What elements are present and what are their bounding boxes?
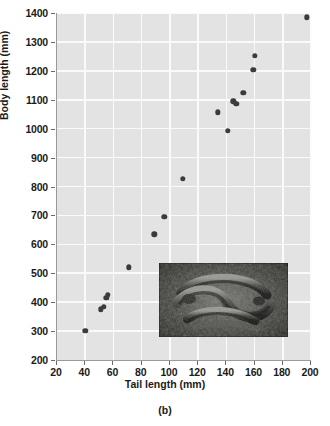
data-point — [225, 128, 230, 133]
y-tick-600 — [51, 244, 55, 245]
y-tick-800 — [51, 187, 55, 188]
x-tick-100 — [169, 361, 170, 365]
data-point — [180, 176, 185, 181]
gridline-horizontal-1200 — [57, 70, 311, 72]
x-tick-200 — [310, 361, 311, 365]
y-tick-label-600: 600 — [14, 238, 48, 250]
y-axis-title: Body length (mm) — [0, 31, 10, 120]
data-point — [126, 265, 131, 270]
y-tick-label-700: 700 — [14, 209, 48, 221]
gridline-horizontal-700 — [57, 215, 311, 217]
data-point — [215, 109, 220, 114]
x-tick-40 — [84, 361, 85, 365]
gridline-horizontal-900 — [57, 157, 311, 159]
x-tick-120 — [197, 361, 198, 365]
data-point — [304, 15, 309, 20]
y-tick-1100 — [51, 100, 55, 101]
x-tick-60 — [112, 361, 113, 365]
gridline-horizontal-1400 — [57, 13, 311, 14]
y-tick-label-200: 200 — [14, 354, 48, 366]
y-tick-400 — [51, 302, 55, 303]
x-axis-title: Tail length (mm) — [0, 378, 330, 390]
gridline-horizontal-1000 — [57, 128, 311, 130]
y-tick-1200 — [51, 71, 55, 72]
gridline-horizontal-800 — [57, 186, 311, 188]
x-tick-180 — [282, 361, 283, 365]
data-point — [152, 232, 157, 237]
panel-caption: (b) — [0, 404, 330, 416]
y-tick-label-400: 400 — [14, 296, 48, 308]
data-point — [234, 101, 239, 106]
y-tick-500 — [51, 273, 55, 274]
gridline-horizontal-600 — [57, 244, 311, 246]
gridline-horizontal-1300 — [57, 41, 311, 43]
x-tick-80 — [141, 361, 142, 365]
y-tick-700 — [51, 215, 55, 216]
x-tick-label-200: 200 — [290, 366, 330, 378]
y-tick-label-800: 800 — [14, 181, 48, 193]
y-tick-label-500: 500 — [14, 267, 48, 279]
data-point — [83, 328, 88, 333]
snake-photograph-inset — [159, 263, 288, 337]
data-point — [101, 304, 106, 309]
x-tick-20 — [56, 361, 57, 365]
y-tick-label-900: 900 — [14, 152, 48, 164]
data-point — [162, 214, 167, 219]
data-point — [105, 292, 110, 297]
figure-panel-b: Body length (mm) — [0, 0, 330, 426]
y-tick-300 — [51, 331, 55, 332]
y-tick-label-300: 300 — [14, 325, 48, 337]
gridline-horizontal-1100 — [57, 99, 311, 101]
y-tick-1300 — [51, 42, 55, 43]
y-tick-label-1000: 1000 — [14, 123, 48, 135]
y-tick-label-1300: 1300 — [14, 36, 48, 48]
data-point — [241, 90, 246, 95]
data-point — [252, 53, 257, 58]
y-tick-label-1100: 1100 — [14, 94, 48, 106]
y-tick-label-1200: 1200 — [14, 65, 48, 77]
y-tick-label-1400: 1400 — [14, 7, 48, 19]
x-tick-160 — [254, 361, 255, 365]
y-tick-200 — [51, 360, 55, 361]
plot-area — [56, 13, 311, 361]
x-tick-140 — [225, 361, 226, 365]
y-tick-1400 — [51, 13, 55, 14]
y-tick-1000 — [51, 129, 55, 130]
y-tick-900 — [51, 158, 55, 159]
